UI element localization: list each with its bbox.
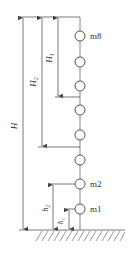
structure-diagram: m8 m2 m1 H H2 H1 h2 h1	[0, 0, 136, 258]
mass-circle	[75, 179, 85, 189]
dimension-H-label: H	[9, 122, 19, 130]
ground-hatching	[36, 231, 125, 241]
mass-circle	[75, 81, 85, 91]
dimension-H1-label: H1	[44, 53, 55, 64]
mass-circle	[75, 57, 85, 67]
mass-circle	[75, 105, 85, 115]
dimension-H2-label: H2	[28, 77, 39, 88]
dimension-h2-label: h2	[41, 204, 51, 211]
mass-label-m1: m1	[90, 204, 102, 214]
mass-circle	[75, 155, 85, 165]
mass-circle	[75, 130, 85, 140]
mass-circle	[75, 204, 85, 214]
mass-label-m8: m8	[90, 31, 102, 41]
dimension-h1-label: h1	[56, 218, 66, 224]
mass-label-m2: m2	[90, 179, 102, 189]
mass-circle	[75, 31, 85, 41]
